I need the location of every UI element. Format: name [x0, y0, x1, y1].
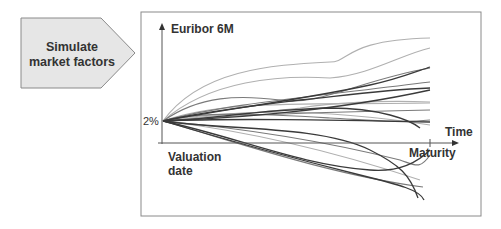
maturity-label: Maturity — [409, 146, 456, 160]
y-axis-arrow-icon — [159, 23, 165, 30]
simulation-chart — [0, 0, 501, 229]
axes — [158, 26, 454, 147]
y-axis-label: Euribor 6M — [171, 22, 234, 36]
valuation-label-line2: date — [168, 164, 221, 178]
valuation-label-line1: Valuation — [168, 150, 221, 164]
valuation-date-label: Valuation date — [168, 150, 221, 178]
x-axis-label: Time — [445, 125, 473, 139]
start-value-label: 2% — [143, 115, 159, 127]
